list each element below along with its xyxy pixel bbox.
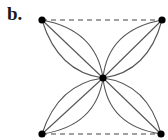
petal-bottom-right [103,78,161,134]
node-center [99,74,106,81]
petal-top-left [42,20,103,78]
node-top-right [158,16,165,23]
node-bottom-right [157,130,164,137]
multigraph-diagram [0,0,168,140]
node-top-left [38,16,45,23]
petal-bottom-left [42,78,103,134]
petal-top-right [103,20,162,78]
node-bottom-left [38,130,45,137]
